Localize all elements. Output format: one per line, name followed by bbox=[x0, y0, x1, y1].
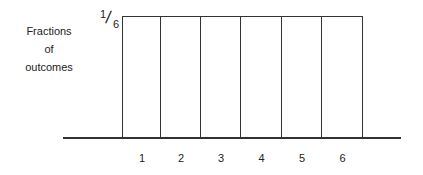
bar bbox=[160, 16, 201, 137]
bar bbox=[321, 16, 363, 137]
y-label-line: of bbox=[14, 40, 84, 58]
y-label-line: outcomes bbox=[14, 58, 84, 76]
x-tick-label: 4 bbox=[252, 152, 272, 164]
x-tick-label: 5 bbox=[292, 152, 312, 164]
bar bbox=[281, 16, 322, 137]
bar bbox=[240, 16, 282, 137]
y-axis-label: Fractions of outcomes bbox=[14, 22, 84, 76]
bar bbox=[200, 16, 241, 137]
x-tick-label: 6 bbox=[333, 152, 353, 164]
frac-denominator: 6 bbox=[113, 18, 119, 30]
x-tick-label: 3 bbox=[211, 152, 231, 164]
x-tick-label: 1 bbox=[132, 152, 152, 164]
y-label-line: Fractions bbox=[14, 22, 84, 40]
x-axis bbox=[63, 137, 401, 139]
bar bbox=[122, 16, 161, 137]
x-tick-label: 2 bbox=[171, 152, 191, 164]
